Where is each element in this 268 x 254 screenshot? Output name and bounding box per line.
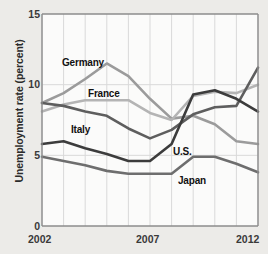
- series-label-france: France: [88, 88, 120, 99]
- y-tick-10: 10: [14, 78, 40, 90]
- y-tick-15: 15: [14, 8, 40, 20]
- series-label-us: U.S.: [173, 146, 192, 157]
- series-label-italy: Italy: [71, 124, 90, 135]
- y-tick-0: 0: [14, 220, 40, 232]
- series-label-japan: Japan: [178, 175, 206, 186]
- unemployment-rate-line-chart: Unemployment rate (percent) 15 10 5 0 20…: [0, 0, 268, 254]
- series-label-germany: Germany: [62, 57, 104, 68]
- y-axis-tick-labels: 15 10 5 0: [10, 0, 40, 254]
- x-tick-2007: 2007: [136, 233, 159, 245]
- y-tick-5: 5: [14, 149, 40, 161]
- x-tick-2012: 2012: [236, 233, 259, 245]
- x-tick-2002: 2002: [28, 233, 51, 245]
- plot-area: [0, 0, 268, 254]
